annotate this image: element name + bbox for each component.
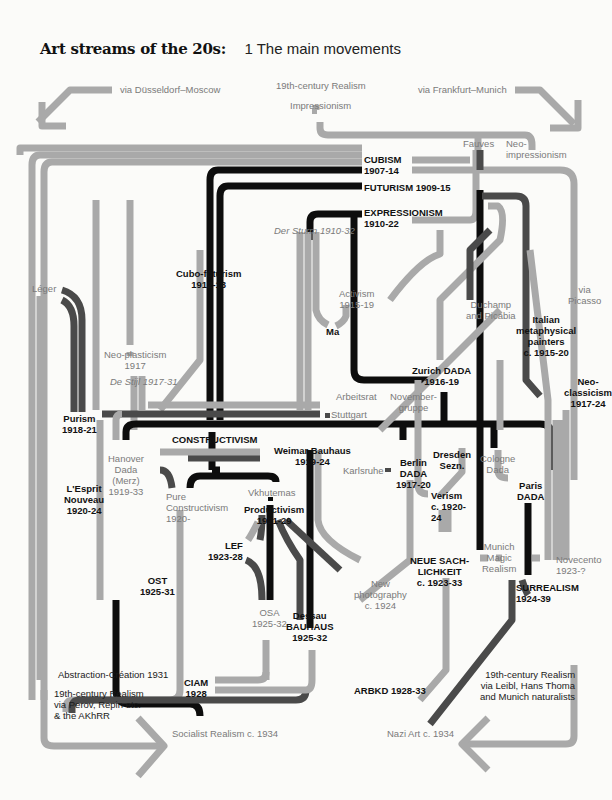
label-expressionism: EXPRESSIONISM 1910-22 — [364, 207, 443, 229]
label-stuttgart: Stuttgart — [331, 409, 367, 420]
label-surrealism: SURREALISM 1924-39 — [516, 582, 579, 604]
label-der-sturm: Der Sturm 1910-32 — [274, 225, 355, 236]
label-ost: OST 1925-31 — [140, 575, 175, 597]
label-realism-perov: 19th-century Realism via Perov, Repin et… — [54, 688, 144, 721]
label-munich-magic-realism: Munich Magic Realism — [482, 541, 516, 574]
label-vkhutemas: Vkhutemas — [248, 487, 296, 498]
label-dessau-bauhaus: Dessau BAUHAUS 1925-32 — [286, 610, 334, 643]
label-purism: Purism 1918-21 — [62, 413, 97, 435]
label-cologne-dada: Cologne Dada — [480, 453, 515, 475]
label-futurism: FUTURISM 1909-15 — [364, 182, 451, 193]
label-socialist-realism: Socialist Realism c. 1934 — [172, 728, 278, 739]
label-ma: Ma — [326, 326, 339, 337]
label-zurich-dada: Zurich DADA 1916-19 — [412, 365, 471, 387]
label-19c-realism: 19th-century Realism — [276, 80, 366, 91]
stream-hanover-pure — [160, 470, 172, 488]
stream-lef-osa — [246, 560, 262, 600]
label-novecento: Novecento 1923-? — [556, 554, 601, 576]
label-leger: Léger — [32, 283, 56, 294]
stream-pure-abstraction — [66, 510, 180, 712]
label-via-picasso: via Picasso — [568, 284, 601, 306]
label-neo-impressionism: Neo- impressionism — [506, 138, 567, 160]
stream-duchamp-zurich — [390, 230, 440, 300]
label-arbkd: ARBKD 1928-33 — [354, 685, 426, 696]
label-activism: Activism 1915-19 — [339, 288, 374, 310]
label-weimar-bauhaus: Weimar Bauhaus 1919-24 — [274, 445, 351, 467]
stream-osa-ciam-h — [215, 672, 266, 680]
stream-purism-2 — [62, 300, 74, 412]
label-paris-dada: Paris DADA — [517, 480, 544, 502]
stream-italian-meta — [482, 196, 540, 396]
label-italian-metaphysical: Italian metaphysical painters c. 1915-20 — [516, 314, 576, 358]
label-fauves: Fauves — [463, 138, 494, 149]
label-productivism: Productivism 1921-29 — [244, 504, 304, 526]
label-karlsruhe: Karlsruhe — [343, 465, 384, 476]
label-berlin-dada: Berlin DADA 1917-20 — [396, 457, 431, 490]
label-cubo-futurism: Cubo-futurism 1912-18 — [176, 268, 241, 290]
label-impressionism: Impressionism — [290, 100, 351, 111]
stream-hanover-hook — [116, 414, 122, 440]
label-neoclassicism: Neo- classicism 1917-24 — [564, 376, 612, 409]
label-lesprit-nouveau: L'Esprit Nouveau 1920-24 — [64, 483, 104, 516]
connector-karlsruhe — [385, 468, 391, 472]
arrow-frankfurt — [515, 90, 574, 124]
label-verism: Verism c. 1920- 24 — [431, 490, 466, 523]
label-hanover-dada: Hanover Dada (Merz) 1919-33 — [108, 453, 144, 497]
connector-stuttgart — [325, 413, 330, 418]
label-arbeitsrat: Arbeitsrat — [336, 391, 377, 402]
stream-der-sturm-ma — [316, 232, 328, 325]
stream-productivism-dessau — [278, 520, 300, 620]
label-de-stijl: De Stijl 1917-31 — [110, 376, 178, 387]
label-via-dusseldorf: via Düsseldorf–Moscow — [120, 84, 220, 95]
label-pure-constructivism: Pure Constructivism 1920- — [166, 491, 228, 524]
stream-neue-arbkd — [420, 578, 446, 700]
label-constructivism: CONSTRUCTIVISM — [172, 434, 258, 445]
label-abstraction-creation: Abstraction-Création 1931 — [58, 669, 168, 680]
label-neo-plasticism: Neo-plasticism 1917 — [104, 349, 166, 371]
label-via-frankfurt: via Frankfurt–Munich — [418, 84, 507, 95]
label-nazi-art: Nazi Art c. 1934 — [387, 728, 454, 739]
label-cubism: CUBISM 1907-14 — [364, 154, 401, 176]
label-novembergruppe: November- gruppe — [390, 391, 437, 413]
stream-impressionism — [316, 105, 532, 150]
label-new-photography: New photography c. 1924 — [354, 578, 407, 611]
stream-munich-nazi — [430, 580, 512, 724]
label-dresden-sezn: Dresden Sezn. — [433, 449, 471, 471]
label-realism-leibl: 19th-century Realism via Leibl, Hans Tho… — [480, 669, 575, 702]
label-osa: OSA 1925-32 — [252, 607, 287, 629]
label-neue-sachlichkeit: NEUE SACH- LICHKEIT c. 1923-33 — [410, 555, 469, 588]
arrow-dusseldorf — [38, 90, 112, 122]
label-lef: LEF 1923-28 — [208, 540, 243, 562]
label-duchamp: Duchamp and Picabia — [466, 299, 516, 321]
label-ciam: CIAM 1928 — [184, 677, 208, 699]
stream-neo-impressionism — [530, 250, 548, 560]
